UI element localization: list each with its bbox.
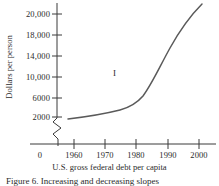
figure-container: 20,000 18,000 14,000 10,000 6000 2000 0 … [0, 0, 219, 186]
x-tick-label-1990: 1990 [153, 151, 183, 160]
data-line-series-I [68, 4, 202, 119]
x-tick-label-1980: 1980 [121, 151, 151, 160]
figure-caption: Figure 6. Increasing and decreasing slop… [6, 176, 219, 186]
y-tick-label-20000: 20,000 [6, 10, 50, 19]
x-tick-label-2000: 2000 [184, 151, 214, 160]
y-axis-title: Dollars per person [4, 19, 14, 115]
series-annotation-label: I [113, 68, 116, 78]
x-tick-label-0: 0 [32, 151, 48, 160]
y-axis-break-icon [53, 118, 61, 139]
x-tick-label-1970: 1970 [90, 151, 120, 160]
x-tick-label-1960: 1960 [59, 151, 89, 160]
x-axis-title: U.S. gross federal debt per capita [0, 162, 219, 172]
